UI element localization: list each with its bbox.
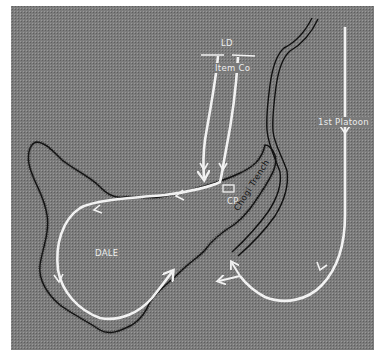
label-item-co: Item Co bbox=[214, 63, 251, 73]
label-first-platoon: 1st Platoon bbox=[317, 117, 370, 127]
label-ld: LD bbox=[221, 38, 233, 48]
label-dale: DALE bbox=[95, 248, 119, 258]
battle-map bbox=[0, 0, 383, 360]
map-background bbox=[11, 6, 374, 350]
